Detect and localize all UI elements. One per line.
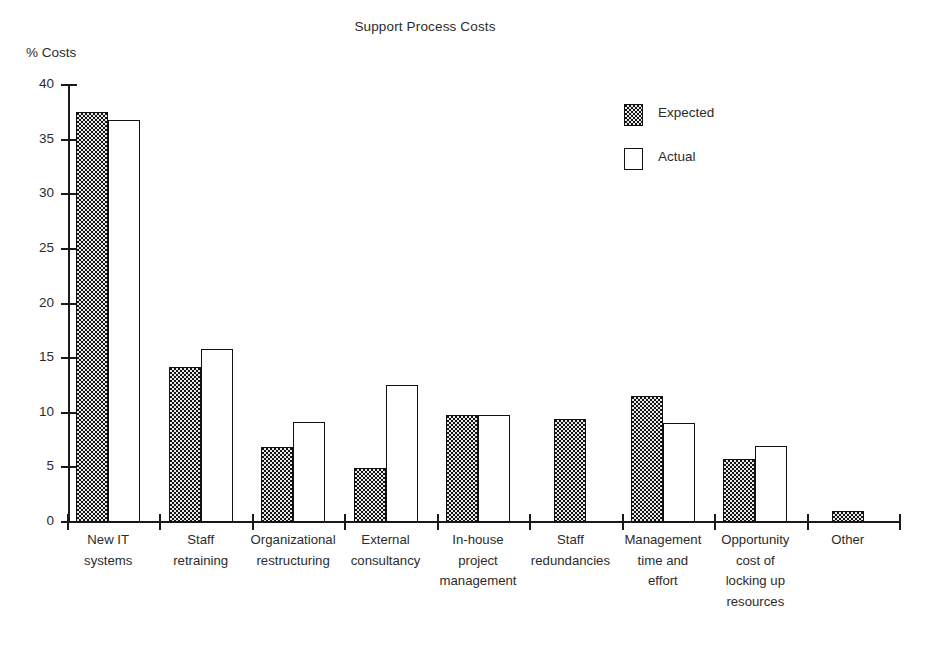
category-label-line: locking up: [698, 571, 812, 592]
y-tick-25: [61, 248, 77, 250]
bar-expected-5: [554, 419, 586, 522]
x-separator-8: [807, 514, 809, 530]
y-tick-label-40: 40: [14, 76, 54, 91]
y-tick-label-0: 0: [14, 513, 54, 528]
y-tick-label-20: 20: [14, 295, 54, 310]
y-tick-label-35: 35: [14, 131, 54, 146]
category-label-line: management: [421, 571, 535, 592]
y-tick-40: [61, 84, 77, 86]
x-separator-7: [714, 514, 716, 530]
category-label-8: Other: [791, 530, 905, 551]
y-tick-15: [61, 357, 77, 359]
y-tick-label-30: 30: [14, 185, 54, 200]
bar-chart: Support Process Costs % Costs 0510152025…: [0, 0, 940, 646]
bar-actual-0: [108, 120, 140, 522]
x-separator-3: [344, 514, 346, 530]
bar-expected-6: [631, 396, 663, 522]
bar-expected-3: [354, 468, 386, 522]
bar-expected-1: [169, 367, 201, 522]
x-separator-6: [622, 514, 624, 530]
bar-expected-8: [832, 511, 864, 522]
y-tick-20: [61, 303, 77, 305]
bar-actual-6: [663, 423, 695, 522]
bar-expected-2: [261, 447, 293, 522]
y-tick-label-5: 5: [14, 458, 54, 473]
bar-expected-0: [76, 112, 108, 522]
bar-expected-7: [723, 459, 755, 522]
plot-area: 0510152025303540 New ITsystemsStaffretra…: [0, 0, 940, 646]
y-tick-35: [61, 139, 77, 141]
y-tick-label-10: 10: [14, 404, 54, 419]
x-separator-5: [529, 514, 531, 530]
y-tick-10: [61, 412, 77, 414]
bar-actual-7: [755, 446, 787, 522]
legend-swatch-expected-icon: [624, 104, 643, 126]
legend-label-actual: Actual: [658, 149, 696, 164]
y-tick-0: [61, 521, 77, 523]
x-separator-0: [67, 514, 69, 530]
y-tick-label-15: 15: [14, 349, 54, 364]
category-label-line: cost of: [698, 551, 812, 572]
x-separator-1: [159, 514, 161, 530]
bar-actual-3: [386, 385, 418, 522]
category-label-line: Other: [791, 530, 905, 551]
x-separator-4: [437, 514, 439, 530]
x-separator-9: [899, 514, 901, 530]
y-tick-5: [61, 466, 77, 468]
category-label-line: resources: [698, 592, 812, 613]
x-separator-2: [252, 514, 254, 530]
bar-actual-2: [293, 422, 325, 523]
legend-label-expected: Expected: [658, 105, 714, 120]
y-tick-30: [61, 193, 77, 195]
bar-actual-1: [201, 349, 233, 522]
y-tick-label-25: 25: [14, 240, 54, 255]
legend-swatch-actual-icon: [624, 148, 643, 170]
bar-actual-4: [478, 415, 510, 522]
bar-expected-4: [446, 415, 478, 522]
